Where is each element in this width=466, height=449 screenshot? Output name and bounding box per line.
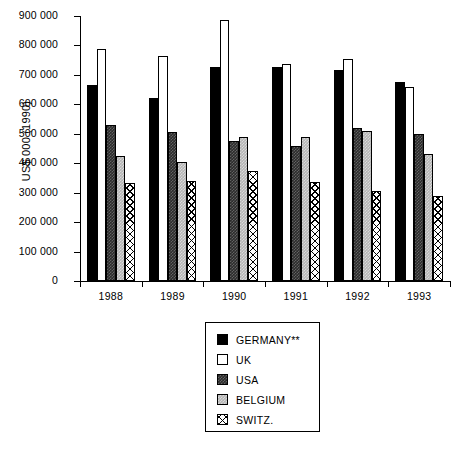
legend-swatch-uk bbox=[217, 354, 228, 365]
bar bbox=[301, 137, 311, 281]
x-tick-mark bbox=[142, 281, 143, 287]
y-tick-label: 0 bbox=[0, 274, 58, 286]
bar bbox=[87, 85, 97, 281]
x-tick-mark bbox=[450, 281, 451, 287]
bar bbox=[239, 137, 249, 281]
legend-label: GERMANY** bbox=[236, 334, 300, 346]
bar bbox=[210, 67, 220, 281]
y-tick-mark bbox=[74, 193, 80, 194]
bar bbox=[149, 98, 159, 281]
bar bbox=[405, 87, 415, 281]
bar bbox=[362, 131, 372, 281]
y-tick-label: 600 000 bbox=[0, 97, 58, 109]
bar bbox=[424, 154, 434, 281]
plot-area: 0100 000200 000300 000400 000500 000600 … bbox=[80, 16, 450, 281]
y-tick-mark bbox=[74, 222, 80, 223]
y-tick-label: 500 000 bbox=[0, 127, 58, 139]
y-tick-label: 800 000 bbox=[0, 38, 58, 50]
bar bbox=[125, 183, 135, 281]
x-tick-mark bbox=[388, 281, 389, 287]
legend-label: BELGIUM bbox=[236, 394, 285, 406]
bar-chart: US$ 000 (1990) 0100 000200 000300 000400… bbox=[0, 0, 466, 449]
legend-item: SWITZ. bbox=[217, 413, 273, 426]
y-tick-mark bbox=[74, 16, 80, 17]
x-group-label: 1989 bbox=[142, 290, 204, 302]
legend-item: USA bbox=[217, 373, 259, 386]
bar bbox=[372, 191, 382, 281]
bar bbox=[414, 134, 424, 281]
x-group-label: 1991 bbox=[265, 290, 327, 302]
bar bbox=[343, 59, 353, 281]
x-tick-mark bbox=[203, 281, 204, 287]
y-tick-label: 900 000 bbox=[0, 9, 58, 21]
y-tick-label: 200 000 bbox=[0, 215, 58, 227]
x-group-label: 1992 bbox=[327, 290, 389, 302]
bar bbox=[177, 162, 187, 281]
y-tick-label: 700 000 bbox=[0, 68, 58, 80]
legend-item: GERMANY** bbox=[217, 333, 300, 346]
bar bbox=[272, 67, 282, 281]
bar bbox=[395, 82, 405, 281]
y-tick-mark bbox=[74, 163, 80, 164]
bar bbox=[187, 181, 197, 281]
y-tick-mark bbox=[74, 134, 80, 135]
x-tick-mark bbox=[265, 281, 266, 287]
legend-item: UK bbox=[217, 353, 251, 366]
legend-label: USA bbox=[236, 374, 259, 386]
bar bbox=[97, 49, 107, 281]
bar bbox=[168, 132, 178, 281]
legend-label: SWITZ. bbox=[236, 414, 273, 426]
legend-swatch-switz bbox=[217, 414, 228, 425]
y-tick-mark bbox=[74, 45, 80, 46]
y-tick-mark bbox=[74, 75, 80, 76]
x-group-label: 1993 bbox=[388, 290, 450, 302]
bar bbox=[291, 146, 301, 281]
bar bbox=[220, 20, 230, 281]
y-tick-label: 300 000 bbox=[0, 186, 58, 198]
legend-swatch-usa bbox=[217, 374, 228, 385]
legend-swatch-germany bbox=[217, 334, 228, 345]
y-tick-label: 400 000 bbox=[0, 156, 58, 168]
legend-label: UK bbox=[236, 354, 251, 366]
bar bbox=[310, 182, 320, 281]
y-tick-label: 100 000 bbox=[0, 245, 58, 257]
bar bbox=[106, 125, 116, 281]
bar bbox=[229, 141, 239, 281]
bar bbox=[116, 156, 126, 281]
bar bbox=[282, 64, 292, 281]
y-axis-line bbox=[80, 16, 81, 282]
y-tick-mark bbox=[74, 252, 80, 253]
legend-item: BELGIUM bbox=[217, 393, 285, 406]
bar bbox=[158, 56, 168, 281]
bar bbox=[248, 171, 258, 281]
y-tick-mark bbox=[74, 104, 80, 105]
x-tick-mark bbox=[327, 281, 328, 287]
chart-legend: GERMANY**UKUSABELGIUMSWITZ. bbox=[205, 322, 320, 432]
x-tick-mark bbox=[80, 281, 81, 287]
bar bbox=[334, 70, 344, 281]
bar bbox=[433, 196, 443, 281]
bar bbox=[353, 128, 363, 281]
legend-swatch-belgium bbox=[217, 394, 228, 405]
x-group-label: 1990 bbox=[203, 290, 265, 302]
x-group-label: 1988 bbox=[80, 290, 142, 302]
